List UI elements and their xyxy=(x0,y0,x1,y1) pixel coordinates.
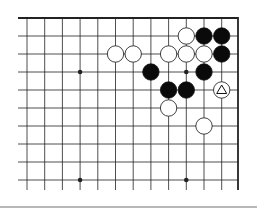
black-stone[interactable] xyxy=(214,46,230,62)
white-stone[interactable] xyxy=(196,46,212,62)
black-stone[interactable] xyxy=(214,28,230,44)
star-point xyxy=(184,70,189,75)
star-point xyxy=(78,178,83,183)
white-stone[interactable] xyxy=(196,118,212,134)
black-stone[interactable] xyxy=(196,28,212,44)
white-stone[interactable] xyxy=(160,100,176,116)
bottom-divider xyxy=(0,206,257,208)
black-stone[interactable] xyxy=(143,64,159,80)
white-stone[interactable] xyxy=(107,46,123,62)
white-stone[interactable] xyxy=(178,28,194,44)
black-stone[interactable] xyxy=(178,82,194,98)
go-board[interactable] xyxy=(0,0,257,206)
star-point xyxy=(184,178,189,183)
white-stone[interactable] xyxy=(178,46,194,62)
black-stone[interactable] xyxy=(196,64,212,80)
black-stone[interactable] xyxy=(160,82,176,98)
white-stone[interactable] xyxy=(160,46,176,62)
white-stone[interactable] xyxy=(125,46,141,62)
star-point xyxy=(78,70,83,75)
